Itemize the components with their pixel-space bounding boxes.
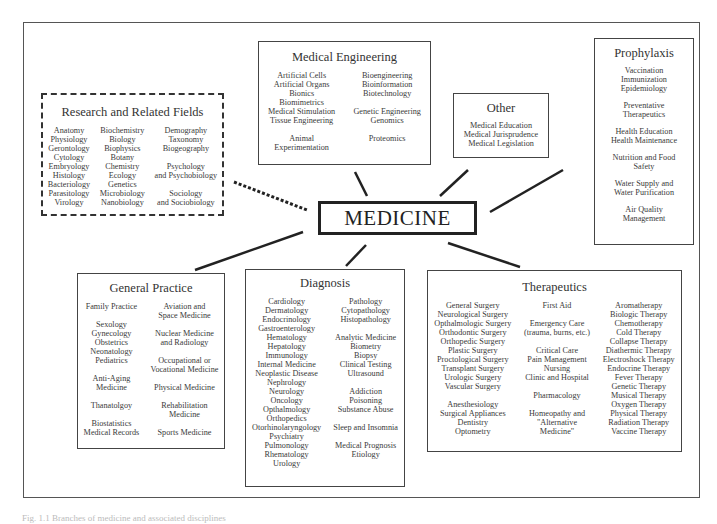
list-item: Pulmonology (265, 441, 309, 450)
list-item: Medicine (169, 410, 200, 419)
list-item: Sleep and Insomnia (333, 423, 398, 432)
list-item: Virology (54, 198, 83, 207)
list-item: Gerontology (48, 144, 89, 153)
research-column: DemographyTaxonomyBiogeographyPsychology… (155, 126, 218, 207)
list-item: Plastic Surgery (448, 346, 498, 355)
list-item: Dermatology (265, 306, 308, 315)
list-item: Cardiology (268, 297, 305, 306)
list-item: Surgical Appliances (440, 409, 506, 418)
list-item: and Sociobiology (157, 198, 215, 207)
list-item: Taxonomy (168, 135, 203, 144)
general-practice-right: Aviation andSpace MedicineNuclear Medici… (151, 302, 219, 437)
list-item: Histology (53, 171, 85, 180)
list-item: Collapse Therapy (610, 337, 668, 346)
list-item: Water Purification (614, 188, 674, 197)
engineering-column: Artificial CellsArtificial OrgansBionics… (268, 71, 335, 152)
list-item: Biostatistics (91, 419, 131, 428)
list-item: Gynecology (91, 329, 131, 338)
list-item: Fever Therapy (615, 373, 663, 382)
list-item: Obstetrics (95, 338, 128, 347)
list-item: Immunology (265, 351, 307, 360)
list-item: Chemistry (105, 162, 139, 171)
general-practice-title: General Practice (78, 281, 224, 296)
list-item: Bioengineering (362, 71, 412, 80)
list-item: Hematology (266, 333, 306, 342)
list-item: Cytopathology (341, 306, 390, 315)
list-item: Emergency Care (530, 319, 585, 328)
list-item: Medical Prognosis (335, 441, 396, 450)
research-fields-columns: AnatomyPhysiologyGerontologyCytologyEmbr… (43, 126, 222, 207)
list-item: Vocational Medicine (151, 365, 219, 374)
list-item: Internal Medicine (257, 360, 315, 369)
list-item: Nuclear Medicine (155, 329, 214, 338)
list-item: Pharmacology (533, 391, 580, 400)
list-item: Histopathology (340, 315, 391, 324)
list-item: Pathology (349, 297, 382, 306)
list-item: Ultrasound (347, 369, 383, 378)
medical-engineering-box: Medical Engineering Artificial CellsArti… (258, 41, 431, 165)
diagnosis-title: Diagnosis (246, 276, 404, 291)
figure-caption: Fig. 1.1 Branches of medicine and associ… (22, 513, 226, 523)
general-practice-columns: Family PracticeSexologyGynecologyObstetr… (78, 302, 224, 437)
connector-general-practice (195, 232, 303, 270)
list-item: Genetics (108, 180, 137, 189)
list-item: Space Medicine (158, 311, 211, 320)
therapeutics-middle: First AidEmergency Care(trauma, burns, e… (524, 301, 590, 436)
therapeutics-box: Therapeutics General SurgeryNeurological… (427, 270, 682, 452)
other-box: Other Medical EducationMedical Jurisprud… (453, 93, 549, 158)
list-item: Biologic Therapy (610, 310, 667, 319)
diagnosis-right: PathologyCytopathologyHistopathologyAnal… (333, 297, 398, 468)
list-item: Bionics (289, 89, 314, 98)
list-item: Vaccine Therapy (611, 427, 666, 436)
list-item: Bioinformation (362, 80, 412, 89)
list-item: Cold Therapy (616, 328, 661, 337)
connector-research (234, 182, 307, 210)
list-item: Anatomy (54, 126, 84, 135)
list-item: Neurological Surgery (438, 310, 509, 319)
list-item: and Radiology (160, 338, 208, 347)
list-item: Genetic Engineering (353, 107, 421, 116)
list-item: Medicine" (540, 427, 574, 436)
list-item: Medicine (96, 383, 127, 392)
list-item: Sexology (96, 320, 127, 329)
list-item: Orthopedic Surgery (440, 337, 505, 346)
list-item: Neurology (269, 387, 304, 396)
list-item: Psychiatry (269, 432, 304, 441)
list-item: Management (623, 214, 666, 223)
medical-engineering-columns: Artificial CellsArtificial OrgansBionics… (259, 71, 430, 152)
list-item: Neoplastic Disease (255, 369, 318, 378)
other-title: Other (454, 101, 548, 116)
connector-therapeutics (448, 243, 520, 267)
medicine-center-box: MEDICINE (318, 201, 477, 235)
diagnosis-box: Diagnosis CardiologyDermatologyEndocrino… (245, 269, 405, 487)
list-item: Biotechnology (363, 89, 411, 98)
list-item: Pediatrics (95, 356, 127, 365)
list-item: Proctological Surgery (437, 355, 508, 364)
engineering-column: BioengineeringBioinformationBiotechnolog… (353, 71, 421, 152)
list-item: Nutrition and Food (613, 153, 676, 162)
list-item: Dentistry (458, 418, 488, 427)
list-item: Biogeography (163, 144, 209, 153)
list-item: Clinic and Hospital (525, 373, 589, 382)
list-item: Vaccination (625, 66, 664, 75)
list-item: Parasitology (49, 189, 90, 198)
connector-engineering (355, 172, 367, 196)
list-item: Proteomics (369, 134, 406, 143)
list-item: Otorhinolaryngology (252, 423, 321, 432)
list-item: Tissue Engineering (270, 116, 333, 125)
list-item: Therapeutics (623, 110, 665, 119)
list-item: Biochemistry (100, 126, 144, 135)
list-item: First Aid (543, 301, 572, 310)
list-item: Orthodontic Surgery (439, 328, 506, 337)
list-item: Sociology (169, 189, 202, 198)
list-item: Oxygen Therapy (611, 400, 666, 409)
list-item: Biology (109, 135, 135, 144)
list-item: Substance Abuse (338, 405, 394, 414)
list-item: Oncology (270, 396, 302, 405)
list-item: Artificial Organs (274, 80, 330, 89)
list-item: Thanatolgoy (91, 401, 132, 410)
list-item: Urologic Surgery (444, 373, 501, 382)
list-item: Clinical Testing (340, 360, 392, 369)
list-item: Botany (111, 153, 135, 162)
list-item: Biometry (350, 342, 381, 351)
